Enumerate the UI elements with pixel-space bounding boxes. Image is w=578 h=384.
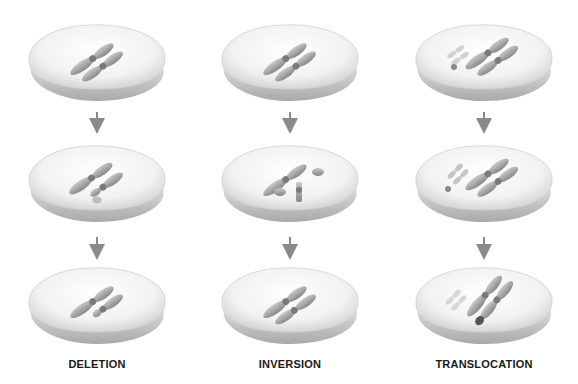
diagram	[0, 0, 578, 384]
inversion-stage-2	[222, 146, 358, 222]
inversion-stage-1	[222, 25, 358, 101]
diagram-canvas	[0, 0, 578, 384]
inversion-stage-3	[222, 268, 358, 344]
translocation-stage-3	[416, 268, 552, 344]
deletion-stage-1	[29, 25, 165, 101]
deletion-stage-3	[29, 268, 165, 344]
deletion-label: DELETION	[68, 358, 125, 370]
translocation-label: TRANSLOCATION	[435, 358, 532, 370]
translocation-stage-2	[416, 146, 552, 222]
inversion-label: INVERSION	[259, 358, 321, 370]
deletion-stage-2	[29, 146, 165, 222]
translocation-stage-1	[416, 25, 552, 101]
